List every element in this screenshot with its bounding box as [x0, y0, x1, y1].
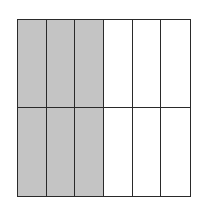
shaded-cell [75, 20, 104, 108]
unshaded-cell [133, 108, 162, 196]
shaded-cell [47, 20, 76, 108]
unshaded-cell [104, 108, 133, 196]
shaded-cell [18, 108, 47, 196]
shaded-cell [47, 108, 76, 196]
unshaded-cell [104, 20, 133, 108]
unshaded-cell [161, 108, 190, 196]
unshaded-cell [133, 20, 162, 108]
shaded-cell [75, 108, 104, 196]
fraction-grid [17, 19, 191, 197]
shaded-cell [18, 20, 47, 108]
unshaded-cell [161, 20, 190, 108]
